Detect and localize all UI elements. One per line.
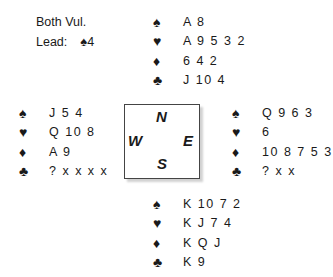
club-icon: ♣ bbox=[153, 72, 183, 88]
cards: 6 bbox=[262, 125, 270, 139]
north-clubs: ♣J 10 4 bbox=[153, 71, 246, 91]
cards: ? x x bbox=[262, 164, 296, 178]
south-hand: ♠K 10 7 2 ♥K J 7 4 ♦K Q J ♣K 9 bbox=[153, 194, 242, 272]
south-diamonds: ♦K Q J bbox=[153, 233, 242, 253]
deal-info: Both Vul. Lead: ♠4 bbox=[36, 12, 94, 52]
cards: A 9 5 3 2 bbox=[183, 34, 246, 48]
compass-north: N bbox=[156, 108, 167, 125]
spade-icon: ♠ bbox=[232, 105, 262, 121]
diamond-icon: ♦ bbox=[19, 144, 49, 160]
cards: Q 9 6 3 bbox=[262, 106, 314, 120]
cards: K Q J bbox=[183, 236, 222, 250]
diamond-icon: ♦ bbox=[232, 144, 262, 160]
cards: A 9 bbox=[49, 145, 72, 159]
diamond-icon: ♦ bbox=[153, 53, 183, 69]
spade-icon: ♠ bbox=[153, 14, 183, 30]
cards: A 8 bbox=[183, 15, 206, 29]
cards: K J 7 4 bbox=[183, 216, 232, 230]
cards: 10 8 7 5 3 bbox=[262, 145, 333, 159]
cards: Q 10 8 bbox=[49, 125, 96, 139]
west-spades: ♠J 5 4 bbox=[19, 103, 108, 123]
heart-icon: ♥ bbox=[153, 33, 183, 49]
east-spades: ♠Q 9 6 3 bbox=[232, 103, 333, 123]
east-hearts: ♥6 bbox=[232, 123, 333, 143]
compass-west: W bbox=[128, 132, 142, 149]
club-icon: ♣ bbox=[19, 163, 49, 179]
compass-box: N W E S bbox=[124, 104, 200, 179]
north-hearts: ♥A 9 5 3 2 bbox=[153, 32, 246, 52]
compass-east: E bbox=[183, 132, 193, 149]
south-spades: ♠K 10 7 2 bbox=[153, 194, 242, 214]
west-hand: ♠J 5 4 ♥Q 10 8 ♦A 9 ♣? x x x x bbox=[19, 103, 108, 181]
south-hearts: ♥K J 7 4 bbox=[153, 214, 242, 234]
cards: J 5 4 bbox=[49, 106, 84, 120]
heart-icon: ♥ bbox=[19, 124, 49, 140]
east-hand: ♠Q 9 6 3 ♥6 ♦10 8 7 5 3 ♣? x x bbox=[232, 103, 333, 181]
cards: J 10 4 bbox=[183, 73, 226, 87]
heart-icon: ♥ bbox=[153, 215, 183, 231]
west-hearts: ♥Q 10 8 bbox=[19, 123, 108, 143]
north-spades: ♠A 8 bbox=[153, 12, 246, 32]
spade-icon: ♠ bbox=[153, 196, 183, 212]
club-icon: ♣ bbox=[232, 163, 262, 179]
cards: K 10 7 2 bbox=[183, 197, 242, 211]
cards: 6 4 2 bbox=[183, 54, 218, 68]
west-diamonds: ♦A 9 bbox=[19, 142, 108, 162]
heart-icon: ♥ bbox=[232, 124, 262, 140]
cards: ? x x x x bbox=[49, 164, 108, 178]
spade-icon: ♠ bbox=[19, 105, 49, 121]
diamond-icon: ♦ bbox=[153, 235, 183, 251]
north-hand: ♠A 8 ♥A 9 5 3 2 ♦6 4 2 ♣J 10 4 bbox=[153, 12, 246, 90]
lead-card: 4 bbox=[87, 35, 94, 49]
lead-label: Lead: bbox=[36, 35, 67, 49]
opening-lead: Lead: ♠4 bbox=[36, 32, 94, 52]
club-icon: ♣ bbox=[153, 254, 183, 270]
north-diamonds: ♦6 4 2 bbox=[153, 51, 246, 71]
south-clubs: ♣K 9 bbox=[153, 253, 242, 273]
east-clubs: ♣? x x bbox=[232, 162, 333, 182]
compass-south: S bbox=[157, 155, 167, 172]
vulnerability-label: Both Vul. bbox=[36, 12, 94, 32]
cards: K 9 bbox=[183, 255, 206, 269]
west-clubs: ♣? x x x x bbox=[19, 162, 108, 182]
east-diamonds: ♦10 8 7 5 3 bbox=[232, 142, 333, 162]
